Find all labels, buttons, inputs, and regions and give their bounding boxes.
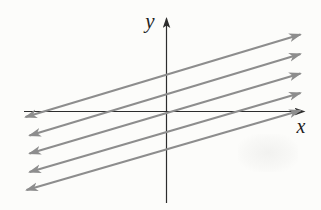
parallel-lines-group <box>26 35 301 191</box>
parallel-lines-plot: y x <box>0 0 321 210</box>
x-axis-label: x <box>296 115 306 137</box>
parallel-line-3 <box>30 74 301 154</box>
parallel-line-5 <box>27 111 301 191</box>
parallel-lines-figure: y x <box>0 0 321 210</box>
y-axis-label: y <box>143 9 155 33</box>
parallel-line-4 <box>30 93 301 172</box>
